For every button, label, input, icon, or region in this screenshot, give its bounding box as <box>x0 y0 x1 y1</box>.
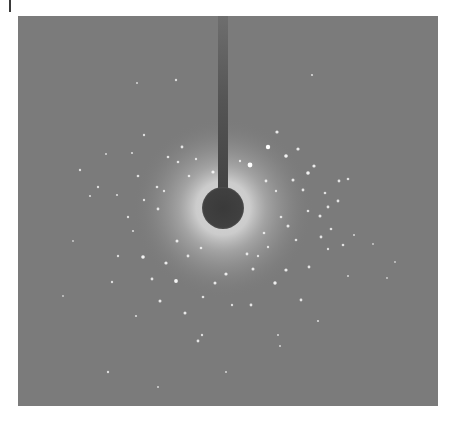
diffraction-spot <box>97 186 99 188</box>
diffraction-spot <box>327 248 329 250</box>
diffraction-spot <box>195 158 197 160</box>
cropped-caption-text: ᵍ ʸ ᵍ ʸ ʸ ᵍ ᵍ <box>30 0 82 3</box>
diffraction-spot <box>266 145 270 149</box>
diffraction-spot <box>164 261 167 264</box>
diffraction-spot <box>292 179 295 182</box>
diffraction-spot <box>324 192 327 195</box>
diffraction-spot <box>312 164 315 167</box>
diffraction-spot <box>181 146 184 149</box>
beamstop-disc <box>202 187 244 229</box>
diffraction-spot <box>307 210 310 213</box>
diffraction-figure <box>18 16 438 406</box>
diffraction-spot <box>338 180 341 183</box>
diffraction-spot <box>167 156 170 159</box>
diffraction-spot <box>137 175 140 178</box>
diffraction-spot <box>135 315 137 317</box>
diffraction-spot <box>295 239 298 242</box>
diffraction-spot <box>263 232 266 235</box>
diffraction-spot <box>136 82 138 84</box>
diffraction-spot <box>353 234 355 236</box>
diffraction-spot <box>347 178 350 181</box>
diffraction-spot <box>72 240 74 242</box>
diffraction-spot <box>200 247 203 250</box>
diffraction-spot <box>163 190 165 192</box>
diffraction-spot <box>151 278 154 281</box>
diffraction-spot <box>117 255 119 257</box>
diffraction-spot <box>252 268 255 271</box>
diffraction-spot <box>156 186 159 189</box>
diffraction-spot <box>79 169 81 171</box>
diffraction-spot <box>308 266 311 269</box>
diffraction-spot <box>143 199 145 201</box>
diffraction-spot <box>202 296 205 299</box>
diffraction-spot <box>347 275 349 277</box>
diffraction-spot <box>302 189 305 192</box>
diffraction-spot <box>175 79 177 81</box>
diffraction-spot <box>197 340 200 343</box>
diffraction-spot <box>187 255 190 258</box>
diffraction-spot <box>111 281 113 283</box>
diffraction-spot <box>131 152 133 154</box>
diffraction-spot <box>214 282 217 285</box>
diffraction-spot <box>224 272 227 275</box>
diffraction-spot <box>330 228 333 231</box>
beamstop-arm <box>218 16 228 201</box>
diffraction-spot <box>176 240 179 243</box>
diffraction-spot <box>141 255 145 259</box>
diffraction-spot <box>337 200 340 203</box>
diffraction-spot <box>132 230 134 232</box>
diffraction-spot <box>394 261 396 263</box>
diffraction-spot <box>157 386 159 388</box>
diffraction-spot <box>317 320 319 322</box>
diffraction-spot <box>386 277 388 279</box>
diffraction-spot <box>246 253 249 256</box>
diffraction-spot <box>275 130 278 133</box>
diffraction-spot <box>239 160 241 162</box>
diffraction-spot <box>89 195 91 197</box>
diffraction-spot <box>311 74 313 76</box>
caption-rule <box>9 0 11 12</box>
diffraction-spot <box>372 243 374 245</box>
diffraction-spot <box>157 208 160 211</box>
diffraction-pattern-image <box>18 16 438 406</box>
diffraction-spot <box>188 175 191 178</box>
diffraction-spot <box>116 194 118 196</box>
diffraction-spot <box>319 215 322 218</box>
diffraction-spot <box>107 371 109 373</box>
diffraction-spot <box>287 225 290 228</box>
diffraction-spot <box>277 334 279 336</box>
diffraction-spot <box>320 236 323 239</box>
diffraction-spot <box>296 147 299 150</box>
diffraction-spot <box>273 281 276 284</box>
diffraction-spot <box>201 334 203 336</box>
diffraction-spot <box>184 312 187 315</box>
diffraction-spot <box>62 295 64 297</box>
diffraction-spot <box>284 268 287 271</box>
diffraction-spot <box>174 279 178 283</box>
diffraction-spot <box>127 216 129 218</box>
diffraction-spot <box>231 304 233 306</box>
diffraction-spot <box>248 163 253 168</box>
diffraction-spot <box>225 371 227 373</box>
diffraction-spot <box>105 153 107 155</box>
diffraction-spot <box>267 246 269 248</box>
diffraction-spot <box>143 134 145 136</box>
diffraction-spot <box>284 154 288 158</box>
diffraction-spot <box>211 170 214 173</box>
diffraction-spot <box>300 299 303 302</box>
diffraction-spot <box>275 190 277 192</box>
diffraction-spot <box>279 345 281 347</box>
diffraction-spot <box>159 300 162 303</box>
diffraction-spot <box>342 244 345 247</box>
diffraction-spot <box>280 216 283 219</box>
diffraction-spot <box>265 180 268 183</box>
diffraction-spot <box>250 304 253 307</box>
diffraction-spot <box>306 171 310 175</box>
diffraction-spot <box>177 161 180 164</box>
diffraction-spot <box>327 206 330 209</box>
diffraction-spot <box>257 255 259 257</box>
